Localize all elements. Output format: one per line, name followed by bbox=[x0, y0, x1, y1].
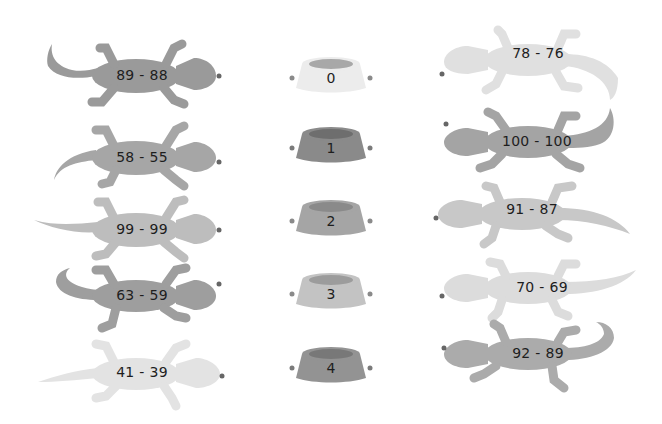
gecko-expression: 63 - 59 bbox=[96, 284, 188, 306]
bowl-4[interactable]: 4 bbox=[288, 340, 374, 386]
gecko-expression: 58 - 55 bbox=[96, 146, 188, 168]
gecko-right-1[interactable]: 78 - 76 bbox=[440, 22, 640, 102]
bowl-2[interactable]: 2 bbox=[288, 193, 374, 239]
bowl-number: 1 bbox=[288, 140, 374, 156]
bowl-number: 2 bbox=[288, 213, 374, 229]
gecko-expression: 70 - 69 bbox=[496, 276, 588, 298]
bowl-number: 3 bbox=[288, 286, 374, 302]
gecko-right-5[interactable]: 92 - 89 bbox=[440, 318, 640, 398]
gecko-left-2[interactable]: 58 - 55 bbox=[26, 118, 226, 198]
gecko-expression: 91 - 87 bbox=[486, 198, 578, 220]
gecko-left-5[interactable]: 41 - 39 bbox=[26, 336, 226, 416]
gecko-right-2[interactable]: 100 - 100 bbox=[440, 102, 640, 182]
gecko-expression: 99 - 99 bbox=[96, 218, 188, 240]
bowl-0[interactable]: 0 bbox=[288, 50, 374, 96]
gecko-expression: 78 - 76 bbox=[492, 42, 584, 64]
bowl-number: 4 bbox=[288, 360, 374, 376]
gecko-expression: 92 - 89 bbox=[492, 342, 584, 364]
gecko-right-3[interactable]: 91 - 87 bbox=[434, 178, 634, 258]
gecko-expression: 100 - 100 bbox=[482, 130, 592, 152]
bowl-number: 0 bbox=[288, 70, 374, 86]
gecko-left-1[interactable]: 89 - 88 bbox=[26, 36, 226, 116]
bowl-1[interactable]: 1 bbox=[288, 120, 374, 166]
gecko-expression: 89 - 88 bbox=[96, 64, 188, 86]
bowl-3[interactable]: 3 bbox=[288, 266, 374, 312]
gecko-expression: 41 - 39 bbox=[96, 361, 188, 383]
gecko-left-4[interactable]: 63 - 59 bbox=[26, 258, 226, 338]
